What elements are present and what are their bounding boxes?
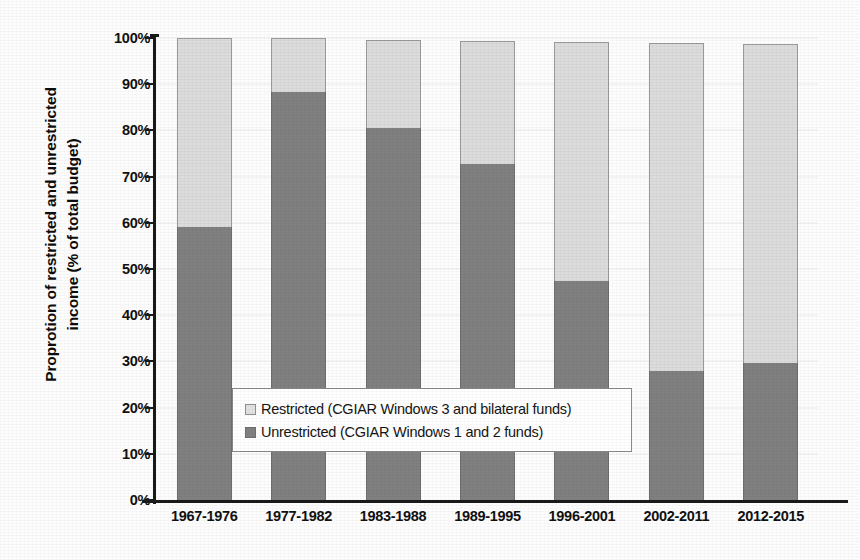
bar-segment-unrestricted[interactable] bbox=[743, 363, 798, 500]
legend-item-unrestricted[interactable]: Unrestricted (CGIAR Windows 1 and 2 fund… bbox=[245, 424, 621, 440]
y-axis-tick-label: 20% bbox=[92, 400, 150, 416]
y-axis-title-line-1: Proprotion of restricted and unrestricte… bbox=[40, 4, 62, 464]
bar-group[interactable] bbox=[177, 38, 232, 500]
bar-segment-restricted[interactable] bbox=[743, 44, 798, 363]
x-axis-line bbox=[142, 500, 848, 503]
bar-segment-restricted[interactable] bbox=[177, 38, 232, 227]
y-axis-tick-label: 90% bbox=[92, 76, 150, 92]
y-axis-tick-label: 40% bbox=[92, 307, 150, 323]
y-axis-tick-label: 30% bbox=[92, 353, 150, 369]
bar-segment-unrestricted[interactable] bbox=[177, 227, 232, 500]
bar-group[interactable] bbox=[649, 38, 704, 500]
bar-segment-restricted[interactable] bbox=[460, 41, 515, 164]
y-axis-title: Proprotion of restricted and unrestricte… bbox=[40, 4, 85, 464]
y-axis-tick-label: 80% bbox=[92, 122, 150, 138]
y-axis-line bbox=[153, 34, 156, 504]
bar-segment-restricted[interactable] bbox=[554, 42, 609, 280]
y-axis-title-line-2: income (% of total budget) bbox=[62, 4, 84, 464]
y-axis-tick-label: 100% bbox=[92, 30, 150, 46]
y-axis-tick-label: 50% bbox=[92, 261, 150, 277]
legend-label-restricted: Restricted (CGIAR Windows 3 and bilatera… bbox=[261, 401, 571, 417]
y-axis-tick-label: 60% bbox=[92, 215, 150, 231]
legend-swatch-restricted-icon bbox=[245, 404, 256, 415]
bar-segment-restricted[interactable] bbox=[649, 43, 704, 371]
bar-segment-restricted[interactable] bbox=[271, 38, 326, 92]
y-axis-top-cap bbox=[150, 34, 159, 37]
bar-segment-restricted[interactable] bbox=[366, 40, 421, 127]
y-axis-tick-labels: 0%10%20%30%40%50%60%70%80%90%100% bbox=[92, 0, 150, 560]
y-axis-tick-label: 10% bbox=[92, 446, 150, 462]
legend-swatch-unrestricted-icon bbox=[245, 427, 256, 438]
x-axis-tick-label: 2012-2015 bbox=[711, 508, 831, 524]
chart-legend: Restricted (CGIAR Windows 3 and bilatera… bbox=[232, 388, 632, 452]
bar-group[interactable] bbox=[743, 38, 798, 500]
legend-label-unrestricted: Unrestricted (CGIAR Windows 1 and 2 fund… bbox=[261, 424, 543, 440]
chart-figure: Proprotion of restricted and unrestricte… bbox=[0, 0, 860, 560]
legend-item-restricted[interactable]: Restricted (CGIAR Windows 3 and bilatera… bbox=[245, 401, 621, 417]
y-axis-tick-label: 70% bbox=[92, 169, 150, 185]
bar-segment-unrestricted[interactable] bbox=[649, 371, 704, 500]
